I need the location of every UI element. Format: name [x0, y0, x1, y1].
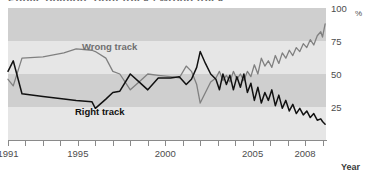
- x-axis-title: Year: [341, 162, 360, 172]
- x-tick-2000: [165, 141, 166, 146]
- clipped-headline: Public opinion: right track / wrong trac…: [8, 0, 224, 1]
- x-axis-label-2005: 2005: [242, 148, 263, 159]
- series-line-right-track: [8, 52, 325, 125]
- series-label-right-track: Right track: [75, 106, 125, 117]
- x-tick-1994: [60, 141, 61, 146]
- x-tick-1991: [8, 141, 9, 146]
- x-tick-2003: [218, 141, 219, 146]
- y-axis-label-50: 50: [331, 69, 342, 80]
- x-axis-line: [8, 140, 327, 141]
- y-axis-label-25: 25: [331, 102, 342, 113]
- x-axis-label-1991: 1991: [0, 148, 19, 159]
- x-axis-label-1995: 1995: [67, 148, 88, 159]
- x-tick-1999: [148, 141, 149, 146]
- x-tick-2002: [200, 141, 201, 146]
- x-tick-1998: [130, 141, 131, 146]
- x-tick-1995: [78, 141, 79, 146]
- series-lines: [8, 8, 326, 140]
- x-tick-1992: [25, 141, 26, 146]
- y-axis-label-75: 75: [331, 36, 342, 47]
- x-tick-2007: [288, 141, 289, 146]
- y-axis-label-100: 100: [331, 3, 347, 14]
- x-tick-2004: [235, 141, 236, 146]
- x-tick-1997: [113, 141, 114, 146]
- x-tick-2006: [270, 141, 271, 146]
- series-line-wrong-track: [8, 24, 325, 103]
- y-axis-unit: %: [355, 9, 362, 18]
- x-tick-2005: [253, 141, 254, 146]
- x-axis-label-2000: 2000: [155, 148, 176, 159]
- series-label-wrong-track: Wrong track: [82, 41, 137, 52]
- plot-area: [8, 8, 326, 140]
- x-tick-2009: [323, 141, 324, 146]
- x-tick-2001: [183, 141, 184, 146]
- x-axis-label-2008: 2008: [294, 148, 315, 159]
- x-tick-1993: [43, 141, 44, 146]
- x-tick-1996: [95, 141, 96, 146]
- x-tick-2008: [305, 141, 306, 146]
- chart-canvas: Public opinion: right track / wrong trac…: [0, 0, 370, 177]
